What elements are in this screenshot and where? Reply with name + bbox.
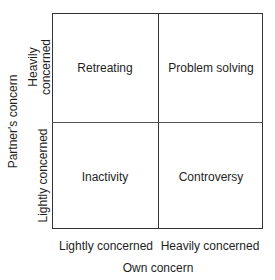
quadrant-label: Inactivity [82,170,129,184]
quadrant-top-left: Retreating [52,14,158,122]
quadrant-label: Problem solving [168,61,253,75]
quadrant-label: Retreating [77,61,132,75]
x-tick-lightly-concerned: Lightly concerned [59,239,153,253]
x-tick-heavily-concerned: Heavily concerned [161,239,260,253]
quadrant-top-right: Problem solving [158,14,264,122]
quadrant-bottom-left: Inactivity [52,123,158,231]
y-axis-title: Partner's concern [7,72,20,172]
y-tick-heavily-concerned: Heavily concerned [27,37,53,97]
quadrant-label: Controversy [179,170,244,184]
y-tick-lightly-concerned: Lightly concerned [37,121,50,231]
x-axis-title: Own concern [123,261,194,275]
quadrant-bottom-right: Controversy [158,123,264,231]
